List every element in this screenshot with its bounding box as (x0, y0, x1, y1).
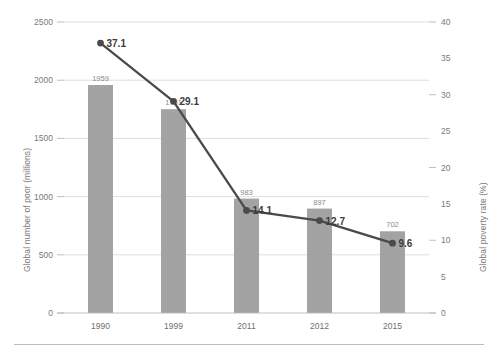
right-tick-label: 15 (441, 199, 451, 209)
category-labels: 19901999201120122015 (91, 321, 402, 331)
line-marker-2015 (389, 240, 396, 247)
line-value-label: 12.7 (326, 216, 346, 227)
bar-value-label: 897 (313, 198, 326, 207)
left-tick-label: 2000 (34, 75, 53, 85)
line-marker-2011 (243, 207, 250, 214)
category-label-1999: 1999 (164, 321, 183, 331)
right-tick-label: 0 (441, 308, 446, 318)
right-tick-label: 10 (441, 235, 451, 245)
right-tick-label: 35 (441, 53, 451, 63)
bar-series (88, 85, 405, 313)
category-label-2012: 2012 (310, 321, 329, 331)
bar-value-label: 702 (386, 220, 399, 229)
left-tick-label: 0 (48, 308, 53, 318)
bar-value-label: 1959 (92, 74, 109, 83)
footer-divider (14, 344, 484, 345)
right-tick-label: 25 (441, 126, 451, 136)
line-value-label: 9.6 (399, 238, 413, 249)
line-marker-1990 (97, 40, 104, 47)
right-tick-label: 5 (441, 272, 446, 282)
category-label-1990: 1990 (91, 321, 110, 331)
left-axis-ticks: 05001000150020002500 (34, 17, 64, 318)
plot-area: 05001000150020002500 0510152025303540 19… (0, 0, 498, 357)
right-tick-label: 30 (441, 90, 451, 100)
category-label-2015: 2015 (383, 321, 402, 331)
bar-value-label: 983 (240, 188, 253, 197)
left-tick-label: 1500 (34, 133, 53, 143)
line-value-label: 14.1 (253, 205, 273, 216)
line-marker-1999 (170, 98, 177, 105)
chart-container: Global number of poor (millions) Global … (0, 0, 498, 357)
bar-1999 (161, 109, 186, 313)
line-value-label: 37.1 (107, 38, 127, 49)
right-axis-ticks: 0510152025303540 (429, 17, 451, 318)
line-value-label: 29.1 (180, 96, 200, 107)
right-tick-label: 40 (441, 17, 451, 27)
line-marker-2012 (316, 217, 323, 224)
category-label-2011: 2011 (237, 321, 256, 331)
left-tick-label: 2500 (34, 17, 53, 27)
left-tick-label: 500 (39, 250, 53, 260)
line-value-labels: 37.129.114.112.79.6 (107, 38, 413, 249)
left-tick-label: 1000 (34, 192, 53, 202)
right-tick-label: 20 (441, 163, 451, 173)
bar-1990 (88, 85, 113, 313)
